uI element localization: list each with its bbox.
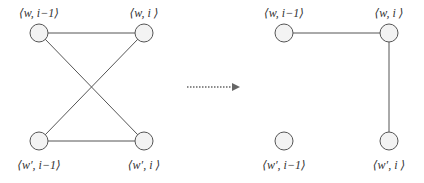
- diagram-svg: [0, 0, 424, 183]
- label-left-w-i-minus-1: ⟨w, i−1⟩: [19, 6, 59, 21]
- node-left-wprime-i: [135, 132, 153, 150]
- label-left-wprime-i-minus-1: ⟨w′, i−1⟩: [17, 158, 60, 173]
- label-left-wprime-i: ⟨w′, i ⟩: [128, 158, 160, 173]
- node-left-w-i: [135, 24, 153, 42]
- node-right-w-i: [380, 24, 398, 42]
- right-graph: [275, 24, 398, 150]
- left-graph: [30, 24, 153, 150]
- label-right-wprime-i-minus-1: ⟨w′, i−1⟩: [262, 158, 305, 173]
- node-right-wprime-i: [380, 132, 398, 150]
- node-right-wprime-i-minus-1: [275, 132, 293, 150]
- node-left-w-i-minus-1: [30, 24, 48, 42]
- node-right-w-i-minus-1: [275, 24, 293, 42]
- label-right-w-i: ⟨w, i ⟩: [375, 6, 404, 21]
- label-left-w-i: ⟨w, i ⟩: [130, 6, 159, 21]
- label-right-wprime-i: ⟨w′, i ⟩: [373, 158, 405, 173]
- transform-arrow: [187, 83, 240, 91]
- diagram-canvas: ⟨w, i−1⟩ ⟨w, i ⟩ ⟨w′, i−1⟩ ⟨w′, i ⟩ ⟨w, …: [0, 0, 424, 183]
- label-right-w-i-minus-1: ⟨w, i−1⟩: [264, 6, 304, 21]
- node-left-wprime-i-minus-1: [30, 132, 48, 150]
- arrowhead-icon: [232, 83, 240, 91]
